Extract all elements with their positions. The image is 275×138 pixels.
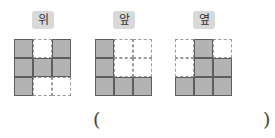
filled-cell: [133, 77, 152, 96]
front-view-grid: [95, 39, 152, 96]
front-view-label: 앞: [113, 11, 135, 29]
filled-cell: [175, 77, 194, 96]
filled-cell: [52, 39, 71, 58]
answer-blank[interactable]: [105, 110, 260, 130]
side-view-grid: [175, 39, 232, 96]
empty-cell: [133, 39, 152, 58]
empty-cell: [52, 77, 71, 96]
filled-cell: [14, 58, 33, 77]
filled-cell: [213, 77, 232, 96]
filled-cell: [95, 77, 114, 96]
filled-cell: [95, 58, 114, 77]
empty-cell: [33, 77, 52, 96]
top-view-grid: [14, 39, 71, 96]
filled-cell: [95, 39, 114, 58]
empty-cell: [33, 39, 52, 58]
filled-cell: [52, 58, 71, 77]
empty-cell: [114, 39, 133, 58]
answer-open-paren: (: [93, 108, 100, 130]
top-view-label: 위: [32, 11, 54, 29]
empty-cell: [114, 58, 133, 77]
side-view-label: 옆: [193, 11, 215, 29]
filled-cell: [194, 77, 213, 96]
filled-cell: [33, 58, 52, 77]
empty-cell: [175, 39, 194, 58]
answer-close-paren: ): [263, 108, 270, 130]
empty-cell: [175, 58, 194, 77]
empty-cell: [133, 58, 152, 77]
filled-cell: [213, 58, 232, 77]
filled-cell: [114, 77, 133, 96]
empty-cell: [213, 39, 232, 58]
filled-cell: [194, 39, 213, 58]
filled-cell: [194, 58, 213, 77]
filled-cell: [14, 39, 33, 58]
filled-cell: [14, 77, 33, 96]
